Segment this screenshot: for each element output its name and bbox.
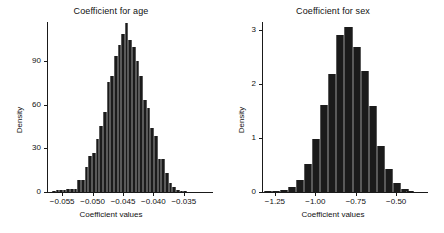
x-axis-label-age: Coefficient values [0,210,222,219]
y-tick [259,30,262,31]
x-tick-label: −0.50 [374,197,418,206]
histogram-bar [296,180,304,192]
y-tick-label: 1 [230,133,256,142]
plot-area-age: 0306090−0.055−0.050−0.045−0.040−0.035 [47,22,199,192]
x-tick [123,193,124,196]
y-tick-label: 3 [230,25,256,34]
x-tick-label: −1.00 [293,197,337,206]
y-axis-line [262,22,263,192]
chart-title-age: Coefficient for age [0,6,222,16]
x-tick [315,193,316,196]
x-axis-line [262,192,428,193]
y-axis-line [47,22,48,192]
histogram-bar [369,106,377,192]
histogram-bar [264,191,272,192]
x-tick [396,193,397,196]
histogram-bar [361,71,369,192]
histogram-bar [353,47,361,192]
histogram-bar [280,190,288,192]
x-tick-label: −1.25 [253,197,297,206]
histogram-bar [377,146,385,192]
y-tick-label: 60 [15,100,41,109]
histogram-bar [328,74,336,192]
x-axis-label-sex: Coefficient values [222,210,444,219]
x-tick-label: −0.035 [162,197,206,206]
y-tick [259,84,262,85]
y-tick-label: 0 [15,187,41,196]
y-tick [44,105,47,106]
y-axis-label-sex: Density [237,107,246,134]
x-tick [62,193,63,196]
plot-area-sex: 0123−1.25−1.00−0.75−0.50 [262,22,414,192]
x-axis-line [47,192,213,193]
x-tick [275,193,276,196]
x-tick [93,193,94,196]
x-tick [184,193,185,196]
histogram-bar [320,105,328,192]
chart-panel-coefficient-for-sex: Coefficient for sex Density 0123−1.25−1.… [222,0,444,233]
y-tick [259,138,262,139]
y-tick-label: 0 [230,187,256,196]
histogram-bar [406,191,414,192]
x-tick-label: −0.75 [334,197,378,206]
histogram-bar [393,183,401,192]
y-tick [44,61,47,62]
y-tick-label: 2 [230,79,256,88]
y-tick-label: 30 [15,143,41,152]
histogram-bar [288,187,296,192]
histogram-bar [312,139,320,192]
x-tick [153,193,154,196]
x-tick [356,193,357,196]
y-tick [259,192,262,193]
histogram-bar [344,27,352,192]
histogram-bar [183,191,187,192]
histogram-bar [385,169,393,192]
histogram-bar [336,35,344,192]
y-tick [44,192,47,193]
figure-canvas: Coefficient for age Density 0306090−0.05… [0,0,444,233]
y-tick [44,148,47,149]
y-axis-label-age: Density [15,107,24,134]
chart-title-sex: Coefficient for sex [222,6,444,16]
histogram-bar [272,191,280,192]
y-tick-label: 90 [15,56,41,65]
histogram-bar [304,164,312,192]
chart-panel-coefficient-for-age: Coefficient for age Density 0306090−0.05… [0,0,222,233]
